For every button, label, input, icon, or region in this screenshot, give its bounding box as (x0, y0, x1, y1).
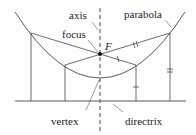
parabola-leader (165, 20, 171, 27)
focus-point-label: F (104, 40, 112, 52)
vertex-leader (86, 80, 99, 110)
parabola-label: parabola (124, 8, 162, 20)
axis-leader (92, 22, 98, 30)
focus-label: focus (62, 28, 86, 40)
directrix-label: directrix (125, 115, 163, 127)
focus-leader (88, 40, 98, 52)
tick-double-chord-b (136, 41, 138, 47)
vertex-label: vertex (51, 115, 79, 127)
directrix-leader (113, 104, 123, 112)
axis-label: axis (69, 9, 87, 21)
tick-double-chord-a (133, 42, 135, 48)
parabola-diagram: axis parabola focus F vertex directrix (0, 0, 196, 135)
focus-point (98, 52, 102, 56)
